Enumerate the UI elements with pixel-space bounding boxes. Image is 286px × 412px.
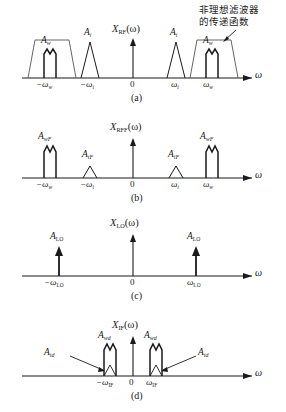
panel-a-tick-pos-omega-w: ωw (203, 80, 213, 89)
panel-c-id: (c) (131, 291, 142, 301)
panel-a-filter-trapezoid-left (28, 40, 76, 78)
panel-b-amp-label-aif-right: AiF (168, 150, 179, 160)
panel-d-tick-origin: 0 (129, 378, 134, 387)
panel-c-axis-arrowhead (243, 273, 252, 279)
panel-b-axis-label: ω (255, 170, 262, 180)
panel-c-axis-label: ω (255, 268, 262, 278)
panel-b-amp-label-awf-left: AwF (38, 132, 51, 142)
panel-b-id: (b) (131, 193, 143, 203)
panel-c-origin-arrowhead (130, 234, 136, 242)
panel-d-tick-neg-omega-if: −ωIF (96, 378, 113, 387)
panel-a-tick-pos-omega-i: ωi (171, 80, 179, 89)
panel-d-signal-block-right (150, 344, 162, 376)
panel-d-leader-left (70, 356, 103, 370)
panel-a-tick-neg-omega-w: −ωw (36, 80, 52, 89)
panel-d-amp-label-awd-right: Awd (144, 331, 157, 341)
nonideal-filter-annotation: 非理想滤波器 的传递函数 (199, 4, 285, 28)
panel-d-title: XIF(ω) (112, 320, 138, 331)
panel-b-signal-block-left (44, 146, 56, 178)
panel-d-tick-pos-omega-if: ωIF (146, 378, 157, 387)
panel-d-amp-label-awd-left: Awd (98, 331, 111, 341)
panel-a-axis-label: ω (255, 70, 262, 80)
panel-d-image-triangle-right (150, 365, 162, 376)
panel-a-amp-label-ai-right: Ai (170, 28, 177, 38)
panel-b-plot (0, 108, 286, 208)
panel-b-axis-arrowhead (243, 175, 252, 181)
panel-c-tick-neg-omega-lo: −ωLO (44, 278, 64, 287)
panel-c-xlo-spectrum: XLO(ω) ALO ALO −ωLO 0 ωLO ω (c) (0, 206, 286, 306)
panel-b-tick-neg-omega-w: −ωw (36, 180, 52, 189)
panel-d-axis-label: ω (255, 368, 262, 378)
panel-b-amp-label-awf-right: AwF (200, 132, 213, 142)
panel-b-tick-neg-omega-i: −ωi (80, 180, 94, 189)
panel-a-image-triangle-right (167, 42, 185, 78)
panel-b-xrff-spectrum: XRFF(ω) AwF AiF AiF AwF −ωw −ωi 0 ωi ωw … (0, 108, 286, 208)
panel-a-image-triangle-left (81, 42, 99, 78)
panel-d-axis-arrowhead (243, 373, 252, 379)
panel-b-tick-pos-omega-w: ωw (203, 180, 213, 189)
panel-b-image-triangle-left (83, 166, 97, 178)
panel-c-amp-label-alo-right: ALO (187, 232, 200, 242)
panel-a-title: XRF(ω) (112, 24, 140, 35)
panel-b-tick-pos-omega-i: ωi (171, 180, 179, 189)
panel-d-xif-spectrum: XIF(ω) Aid Awd Awd Aid −ωIF 0 ωIF ω (d) (0, 304, 286, 412)
panel-c-impulse-arrowhead-left (55, 246, 63, 256)
panel-b-tick-origin: 0 (130, 180, 135, 189)
panel-b-amp-label-aif-left: AiF (82, 150, 93, 160)
panel-d-signal-block-left (104, 344, 116, 376)
panel-a-amp-label-ai-left: Ai (84, 28, 91, 38)
panel-c-amp-label-alo-left: ALO (50, 232, 63, 242)
panel-d-origin-arrowhead (130, 336, 136, 344)
panel-d-image-triangle-left (104, 365, 116, 376)
panel-b-origin-arrowhead (130, 138, 136, 146)
panel-c-plot (0, 206, 286, 306)
panel-d-amp-label-aid-left: Aid (44, 348, 54, 358)
panel-c-impulse-arrowhead-right (192, 246, 200, 256)
panel-a-tick-origin: 0 (130, 80, 135, 89)
panel-a-axis-arrowhead (243, 75, 252, 81)
panel-a-origin-arrowhead (130, 38, 136, 46)
panel-d-id: (d) (131, 391, 143, 401)
panel-d-amp-label-aid-right: Aid (198, 348, 208, 358)
panel-b-image-triangle-right (169, 166, 183, 178)
panel-d-plot (0, 304, 286, 412)
panel-a-amp-label-aw-right: Aw (203, 36, 213, 46)
panel-a-id: (a) (131, 93, 142, 103)
panel-c-title: XLO(ω) (110, 218, 139, 229)
panel-a-signal-block-right (206, 49, 218, 78)
panel-a-filter-trapezoid-right (190, 40, 238, 78)
panel-a-amp-label-aw-left: Aw (41, 36, 51, 46)
panel-d-leader-right (163, 356, 196, 370)
panel-c-tick-pos-omega-lo: ωLO (187, 278, 201, 287)
panel-b-signal-block-right (206, 146, 218, 178)
panel-c-tick-origin: 0 (130, 278, 135, 287)
panel-a-tick-neg-omega-i: −ωi (80, 80, 94, 89)
panel-a-xrf-spectrum: XRF(ω) Aw Ai Ai Aw −ωw −ωi 0 ωi ωw ω 非理想… (0, 0, 286, 110)
panel-b-title: XRFF(ω) (110, 122, 142, 133)
panel-a-signal-block-left (44, 49, 56, 78)
